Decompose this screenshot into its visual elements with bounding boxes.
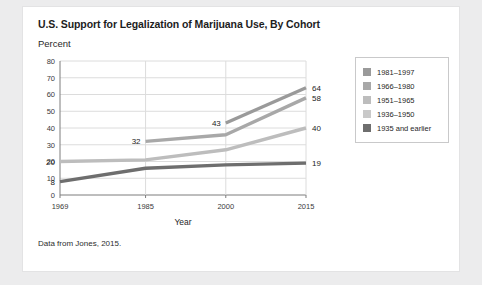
y-axis-unit-label: Percent xyxy=(38,38,71,49)
data-point-label: 43 xyxy=(212,119,221,128)
data-point-label: 32 xyxy=(132,137,141,146)
y-axis-tick-label: 80 xyxy=(47,57,55,66)
legend-swatch-icon xyxy=(363,124,371,132)
chart-legend: 1981–1997 1966–1980 1951–1965 1936–1950 … xyxy=(355,57,449,143)
data-point-label: 64 xyxy=(312,84,321,93)
y-axis-tick-label: 30 xyxy=(47,141,55,150)
legend-item: 1966–1980 xyxy=(356,79,448,93)
line-chart-svg: 0102030405060708019691985200020154364325… xyxy=(38,55,338,225)
y-axis-tick-label: 50 xyxy=(47,107,55,116)
y-axis-tick-label: 60 xyxy=(47,90,55,99)
x-axis-tick-label: 2000 xyxy=(217,202,234,211)
legend-item: 1981–1997 xyxy=(356,65,448,79)
legend-item-label: 1981–1997 xyxy=(377,68,415,77)
legend-item-label: 1936–1950 xyxy=(377,110,415,119)
legend-item: 1936–1950 xyxy=(356,107,448,121)
legend-swatch-icon xyxy=(363,96,371,104)
legend-item-label: 1935 and earlier xyxy=(377,124,431,133)
data-point-label: 19 xyxy=(312,159,321,168)
x-axis-tick-label: 2015 xyxy=(298,202,315,211)
x-axis-tick-label: 1969 xyxy=(52,202,69,211)
y-axis-tick-label: 70 xyxy=(47,74,55,83)
x-axis-title: Year xyxy=(174,217,191,225)
y-axis-tick-label: 0 xyxy=(51,191,55,200)
y-axis-tick-label: 40 xyxy=(47,124,55,133)
data-point-label: 8 xyxy=(51,178,56,187)
chart-card: U.S. Support for Legalization of Marijua… xyxy=(22,6,460,272)
legend-swatch-icon xyxy=(363,82,371,90)
chart-title: U.S. Support for Legalization of Marijua… xyxy=(38,18,320,30)
data-point-label: 40 xyxy=(312,124,321,133)
legend-item: 1951–1965 xyxy=(356,93,448,107)
data-point-label: 20 xyxy=(46,158,55,167)
legend-item-label: 1966–1980 xyxy=(377,82,415,91)
legend-swatch-icon xyxy=(363,68,371,76)
data-point-label: 58 xyxy=(312,94,321,103)
series-line xyxy=(60,163,306,181)
legend-item: 1935 and earlier xyxy=(356,121,448,135)
source-footnote: Data from Jones, 2015. xyxy=(38,239,121,248)
plot-area: 0102030405060708019691985200020154364325… xyxy=(38,55,338,225)
legend-swatch-icon xyxy=(363,110,371,118)
legend-item-label: 1951–1965 xyxy=(377,96,415,105)
x-axis-tick-label: 1985 xyxy=(137,202,154,211)
